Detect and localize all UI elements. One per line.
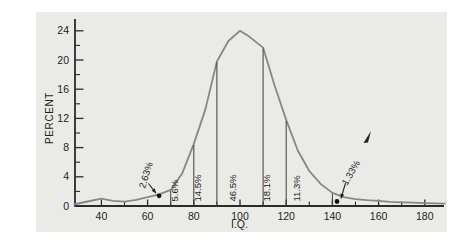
y-tick-label: 20 — [57, 54, 69, 66]
y-tick-label: 12 — [57, 112, 69, 124]
y-tick-label: 4 — [63, 170, 69, 182]
x-tick-label: 180 — [416, 210, 434, 222]
region-percent-label: 46.5% — [227, 174, 238, 201]
y-tick-label: 16 — [57, 83, 69, 95]
y-axis-title: PERCENT — [44, 92, 55, 144]
y-tick-label: 0 — [63, 200, 69, 212]
x-axis-title: I.Q. — [231, 218, 248, 230]
book-figure-page: 048121620244060801001201401601805.6%14.5… — [0, 0, 449, 245]
region-percent-label: 5.6% — [169, 179, 180, 201]
y-tick-label: 8 — [63, 141, 69, 153]
x-tick-label: 40 — [96, 210, 108, 222]
iq-distribution-chart: 048121620244060801001201401601805.6%14.5… — [0, 0, 449, 245]
region-percent-label: 14.5% — [192, 174, 203, 201]
y-tick-label: 24 — [57, 24, 69, 36]
callout-dot — [157, 193, 162, 198]
x-tick-label: 120 — [277, 210, 295, 222]
callout-dot — [335, 199, 340, 204]
region-percent-label: 11.3% — [291, 175, 302, 202]
region-percent-label: 18.1% — [261, 174, 272, 201]
x-tick-label: 80 — [188, 210, 200, 222]
x-tick-label: 140 — [324, 210, 342, 222]
x-tick-label: 160 — [370, 210, 388, 222]
x-tick-label: 60 — [142, 210, 154, 222]
